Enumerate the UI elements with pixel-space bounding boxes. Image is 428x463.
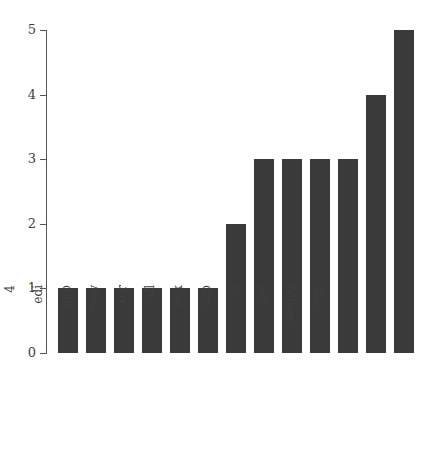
x-axis-tick-label: jne <box>338 361 358 457</box>
y-axis-tick-label: 2 <box>12 217 36 230</box>
bar[interactable] <box>338 159 358 353</box>
x-axis-tick-label-text: call <box>140 285 160 381</box>
x-axis-tick-label-text: xor <box>112 285 132 381</box>
x-axis-tick-label-text: edi <box>28 285 48 381</box>
x-axis-tick-label-text: mov <box>84 285 104 381</box>
x-axis-tick-label-text: 4 <box>0 285 20 381</box>
x-axis-tick-label-text: jmp <box>56 285 76 381</box>
bar-chart-figure: 012345 0x100161b4edijmpmovxorcalleaxebpj… <box>0 0 428 463</box>
x-axis-tick-label-text: cmp <box>308 285 328 381</box>
y-axis-tick-label: 3 <box>12 152 36 165</box>
y-axis-tick-label: 4 <box>12 88 36 101</box>
x-axis-tick-label-text: je <box>224 285 244 381</box>
x-axis-tick-label: dword <box>366 361 386 457</box>
x-axis-tick-label-text: ebp <box>196 285 216 381</box>
x-axis-tick-label-text: dword <box>280 285 300 381</box>
bar[interactable] <box>394 30 414 353</box>
bar[interactable] <box>366 95 386 353</box>
x-axis-tick-label: cmp <box>394 361 414 457</box>
y-axis-tick-label: 5 <box>12 23 36 36</box>
x-axis-tick-label-text: eax <box>168 285 188 381</box>
x-axis-tick-label-text: jne <box>252 285 272 381</box>
